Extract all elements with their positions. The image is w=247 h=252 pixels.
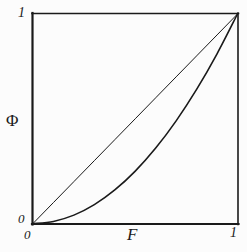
x-axis-label: F — [127, 226, 137, 243]
figure-canvas: Φ F 1 0 0 1 — [0, 0, 247, 252]
y-axis-tick-label-max: 1 — [18, 6, 25, 20]
plot-svg — [0, 0, 247, 252]
x-axis-tick-label-min: 0 — [24, 228, 31, 241]
x-axis-tick-label-max: 1 — [230, 226, 237, 240]
y-axis-label: Φ — [6, 112, 18, 129]
series-line-diagonal — [33, 14, 238, 224]
y-axis-tick-label-min: 0 — [18, 212, 25, 225]
